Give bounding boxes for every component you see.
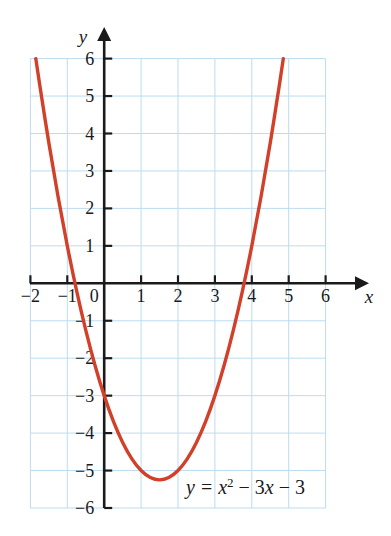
x-tick-labels: −2−10123456: [21, 286, 330, 306]
equation-term1-base: x: [217, 476, 227, 498]
equation-equals: =: [201, 476, 212, 498]
x-tick-label: 6: [321, 286, 330, 306]
y-tick-label: 3: [85, 161, 94, 181]
x-tick-label: −1: [58, 286, 77, 306]
y-tick-label: 4: [85, 124, 94, 144]
y-tick-label: 1: [85, 236, 94, 256]
equation-term1-exponent: 2: [227, 475, 234, 490]
y-tick-label: 6: [85, 49, 94, 69]
x-tick-label: 2: [174, 286, 183, 306]
parabola-plot: −2−10123456 654321−1−2−3−4−5−6 y x y=x2−…: [0, 0, 391, 536]
x-tick-label: 5: [284, 286, 293, 306]
y-tick-label: −4: [75, 423, 94, 443]
x-tick-label: 4: [247, 286, 256, 306]
equation-annotation: y=x2−3x−3: [184, 475, 305, 499]
equation-term3: 3: [295, 476, 305, 498]
x-tick-label: 3: [210, 286, 219, 306]
equation-op1: −: [239, 476, 250, 498]
equation-lhs: y: [184, 476, 195, 499]
y-tick-label: 2: [85, 198, 94, 218]
y-tick-label: −6: [75, 498, 94, 518]
y-tick-label: −3: [75, 386, 94, 406]
x-axis-label: x: [364, 286, 374, 307]
y-tick-label: 5: [85, 86, 94, 106]
equation-term2: 3x: [255, 476, 274, 498]
x-tick-label: −2: [21, 286, 40, 306]
x-tick-label: 1: [137, 286, 146, 306]
graph-figure: −2−10123456 654321−1−2−3−4−5−6 y x y=x2−…: [0, 0, 391, 536]
parabola-curve: [36, 59, 284, 480]
y-tick-label: −5: [75, 461, 94, 481]
equation-op2: −: [279, 476, 290, 498]
y-axis-label: y: [77, 26, 88, 47]
x-tick-label: 0: [90, 286, 99, 306]
y-axis-arrow-icon: [97, 27, 111, 41]
